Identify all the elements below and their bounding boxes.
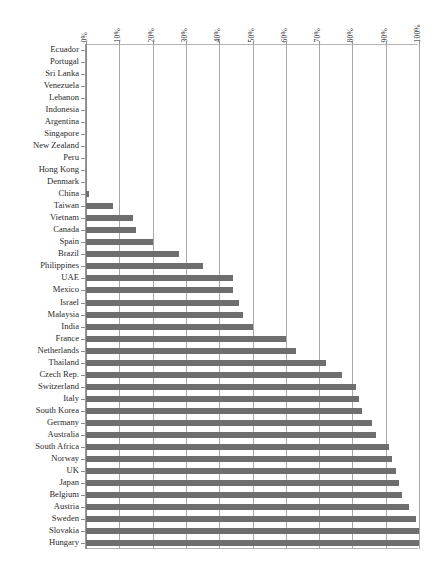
category-label-south-africa: South Africa xyxy=(35,442,79,451)
bar xyxy=(86,336,286,342)
x-tick-label: 40% xyxy=(214,28,222,42)
bar xyxy=(86,468,396,474)
category-label-netherlands: Netherlands xyxy=(37,346,79,355)
bar xyxy=(86,444,389,450)
category-label-south-korea: South Korea xyxy=(36,406,79,415)
category-label-ecuador: Ecuador xyxy=(50,45,79,54)
x-tick-mark xyxy=(119,41,120,44)
category-label-mexico: Mexico xyxy=(53,285,79,294)
x-tick-mark xyxy=(153,41,154,44)
category-label-uae: UAE xyxy=(61,273,79,282)
category-label-spain: Spain xyxy=(59,237,79,246)
category-label-hong-kong: Hong Kong xyxy=(39,165,79,174)
x-tick-mark xyxy=(186,41,187,44)
category-label-canada: Canada xyxy=(53,225,79,234)
category-label-hungary: Hungary xyxy=(49,538,79,547)
category-label-china: China xyxy=(58,189,79,198)
category-label-israel: Israel xyxy=(60,298,79,307)
bar xyxy=(86,528,419,534)
category-label-lebanon: Lebanon xyxy=(49,93,79,102)
bar xyxy=(86,239,153,245)
bar xyxy=(86,263,203,269)
plot-wrapper: EcuadorPortugalSri LankaVenezuelaLebanon… xyxy=(0,44,437,549)
bar xyxy=(86,432,376,438)
category-label-new-zealand: New Zealand xyxy=(33,141,79,150)
x-tick-mark xyxy=(319,41,320,44)
y-axis-category-labels: EcuadorPortugalSri LankaVenezuelaLebanon… xyxy=(0,44,85,549)
bar xyxy=(86,516,416,522)
bar-chart: 0%10%20%30%40%50%60%70%80%90%100% Ecuado… xyxy=(0,0,437,569)
bar xyxy=(86,384,356,390)
category-label-france: France xyxy=(56,334,79,343)
x-tick-label: 50% xyxy=(247,28,255,42)
x-axis-tick-label-strip: 0%10%20%30%40%50%60%70%80%90%100% xyxy=(0,0,437,44)
category-label-venezuela: Venezuela xyxy=(44,81,79,90)
x-tick-mark xyxy=(286,41,287,44)
x-tick-mark xyxy=(419,41,420,44)
category-label-uk: UK xyxy=(67,466,79,475)
bar xyxy=(86,191,89,197)
bar xyxy=(86,348,296,354)
category-label-vietnam: Vietnam xyxy=(50,213,79,222)
x-tick-label: 10% xyxy=(114,28,122,42)
category-label-italy: Italy xyxy=(63,394,79,403)
x-tick-label: 80% xyxy=(347,28,355,42)
bar xyxy=(86,504,409,510)
category-label-argentina: Argentina xyxy=(45,117,79,126)
bar xyxy=(86,456,392,462)
bar xyxy=(86,227,136,233)
bar xyxy=(86,300,239,306)
bar xyxy=(86,203,113,209)
x-tick-label: 70% xyxy=(314,28,322,42)
category-label-belgium: Belgium xyxy=(49,490,79,499)
category-label-peru: Peru xyxy=(63,153,79,162)
category-label-sweden: Sweden xyxy=(52,514,79,523)
x-tick-mark xyxy=(386,41,387,44)
category-label-austria: Austria xyxy=(54,502,79,511)
category-label-brazil: Brazil xyxy=(58,249,79,258)
x-tick-mark xyxy=(352,41,353,44)
category-label-denmark: Denmark xyxy=(47,177,79,186)
x-tick-label: 100% xyxy=(414,24,422,42)
bar xyxy=(86,324,253,330)
category-label-switzerland: Switzerland xyxy=(38,382,79,391)
x-tick-label: 60% xyxy=(280,28,288,42)
category-label-australia: Australia xyxy=(47,430,79,439)
category-label-czech-rep: Czech Rep. xyxy=(39,370,79,379)
bar xyxy=(86,480,399,486)
bar xyxy=(86,492,402,498)
x-tick-mark xyxy=(219,41,220,44)
category-label-malaysia: Malaysia xyxy=(47,310,79,319)
x-tick-mark xyxy=(86,41,87,44)
x-tick-label: 20% xyxy=(147,28,155,42)
bar xyxy=(86,215,133,221)
x-tick-label: 90% xyxy=(380,28,388,42)
category-label-germany: Germany xyxy=(47,418,79,427)
category-label-philippines: Philippines xyxy=(40,261,79,270)
category-label-thailand: Thailand xyxy=(48,358,79,367)
bar xyxy=(86,275,233,281)
bar xyxy=(86,396,359,402)
plot-area xyxy=(85,44,418,549)
category-label-sri-lanka: Sri Lanka xyxy=(45,69,79,78)
bar xyxy=(86,372,342,378)
bar xyxy=(86,312,243,318)
bar xyxy=(86,251,179,257)
category-label-norway: Norway xyxy=(51,454,79,463)
x-tick-label: 30% xyxy=(180,28,188,42)
category-label-taiwan: Taiwan xyxy=(54,201,79,210)
category-label-slovakia: Slovakia xyxy=(49,526,79,535)
x-tick-mark xyxy=(253,41,254,44)
gridline-100pct xyxy=(419,44,420,549)
bar xyxy=(86,360,326,366)
category-label-singapore: Singapore xyxy=(44,129,79,138)
bar xyxy=(86,540,419,546)
bar xyxy=(86,408,362,414)
bar xyxy=(86,287,233,293)
category-label-portugal: Portugal xyxy=(50,57,79,66)
category-label-india: India xyxy=(61,322,79,331)
bar xyxy=(86,420,372,426)
category-label-japan: Japan xyxy=(59,478,79,487)
category-label-indonesia: Indonesia xyxy=(46,105,79,114)
